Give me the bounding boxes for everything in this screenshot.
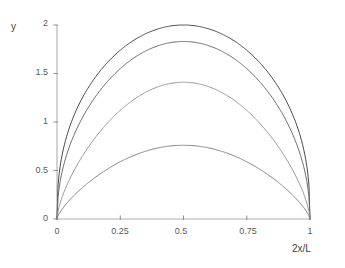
- tick-marks: [54, 25, 311, 220]
- curve-1: [57, 25, 310, 219]
- y-tick-label-1: 1: [30, 117, 48, 126]
- x-axis-title: 2x/L: [292, 244, 311, 254]
- x-tick-label-1: 1: [300, 227, 320, 236]
- curve-2: [57, 41, 310, 219]
- y-axis-title: y: [11, 22, 16, 32]
- curve-3: [57, 82, 310, 219]
- x-tick-label-0p25: 0.25: [107, 227, 133, 236]
- x-tick-label-0: 0: [47, 227, 67, 236]
- y-tick-label-2: 2: [30, 19, 48, 28]
- y-tick-label-0: 0: [30, 214, 48, 223]
- y-tick-label-1p5: 1.5: [26, 68, 48, 77]
- x-tick-label-0p75: 0.75: [235, 227, 261, 236]
- x-tick-label-0p5: 0.5: [171, 227, 191, 236]
- curve-4: [57, 145, 310, 219]
- y-tick-label-0p5: 0.5: [26, 166, 48, 175]
- axis-group: [57, 25, 310, 219]
- chart-figure: y 2x/L 2 1.5 1 0.5 0 0 0.25 0.5 0.75 1: [0, 0, 345, 268]
- data-curves: [57, 25, 310, 219]
